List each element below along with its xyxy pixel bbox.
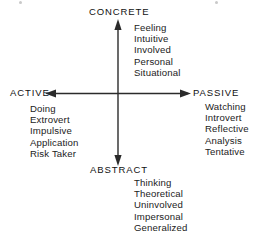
word-item: Impulsive: [30, 125, 79, 136]
pole-label-active: ACTIVE: [10, 87, 50, 98]
vertical-axis: [114, 19, 121, 166]
word-item: Doing: [30, 103, 79, 114]
word-item: Involved: [134, 44, 180, 55]
word-item: Feeling: [134, 22, 180, 33]
word-item: Risk Taker: [30, 148, 79, 159]
word-item: Analysis: [205, 135, 249, 146]
pole-label-concrete: CONCRETE: [89, 6, 150, 17]
word-list-abstract-passive: Watching Introvert Reflective Analysis T…: [205, 101, 249, 157]
pole-label-passive: PASSIVE: [193, 87, 239, 98]
word-item: Tentative: [205, 146, 249, 157]
word-list-abstract-bottom: Thinking Theoretical Uninvolved Imperson…: [134, 177, 187, 233]
pole-label-abstract: ABSTRACT: [90, 164, 148, 175]
word-item: Theoretical: [134, 188, 187, 199]
word-item: Impersonal: [134, 211, 187, 222]
word-item: Thinking: [134, 177, 187, 188]
arrow-right-icon: [180, 90, 191, 98]
word-item: Application: [30, 137, 79, 148]
arrow-up-icon: [114, 19, 121, 30]
word-item: Generalized: [134, 222, 187, 233]
word-item: Introvert: [205, 112, 249, 123]
word-item: Personal: [134, 56, 180, 67]
word-item: Situational: [134, 67, 180, 78]
word-list-concrete-passive: Feeling Intuitive Involved Personal Situ…: [134, 22, 180, 78]
word-item: Uninvolved: [134, 199, 187, 210]
word-item: Reflective: [205, 123, 249, 134]
diagram-canvas: CONCRETE ABSTRACT ACTIVE PASSIVE Feeling…: [0, 0, 264, 236]
word-item: Intuitive: [134, 33, 180, 44]
word-list-concrete-active: Doing Extrovert Impulsive Application Ri…: [30, 103, 79, 159]
word-item: Watching: [205, 101, 249, 112]
word-item: Extrovert: [30, 114, 79, 125]
